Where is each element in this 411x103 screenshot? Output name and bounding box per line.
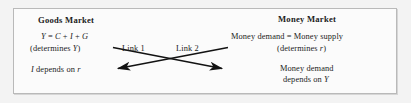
link1-label: Link 1 bbox=[122, 43, 145, 54]
link2-label: Link 2 bbox=[176, 43, 199, 54]
figure-container: Goods Market Y = C + I + G (determines Y… bbox=[0, 0, 411, 103]
link-arrows bbox=[0, 0, 411, 103]
